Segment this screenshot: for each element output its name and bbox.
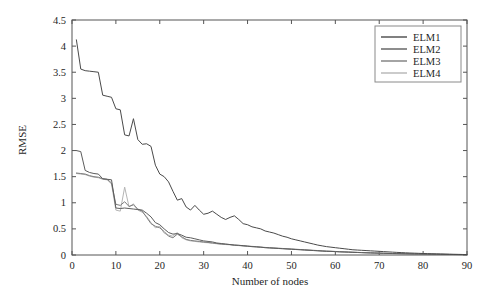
y-tick-label: 4.5 bbox=[53, 15, 66, 26]
x-tick-label: 40 bbox=[242, 260, 253, 271]
x-tick-label: 70 bbox=[374, 260, 385, 271]
y-tick-label: 3.5 bbox=[53, 67, 66, 78]
x-tick-label: 10 bbox=[111, 260, 122, 271]
legend-label-elm4[interactable]: ELM4 bbox=[413, 68, 441, 79]
x-tick-label: 0 bbox=[69, 260, 74, 271]
series-line-elm3 bbox=[76, 173, 467, 255]
y-tick-label: 1.5 bbox=[53, 171, 66, 182]
legend-label-elm1[interactable]: ELM1 bbox=[413, 32, 440, 43]
y-tick-label: 0.5 bbox=[53, 223, 66, 234]
y-tick-label: 1 bbox=[61, 197, 66, 208]
y-tick-label: 0 bbox=[61, 250, 66, 261]
y-tick-label: 4 bbox=[61, 41, 67, 52]
chart-canvas: 010203040506070809000.511.522.533.544.5 … bbox=[0, 0, 485, 294]
chart-legend[interactable]: ELM1ELM2ELM3ELM4 bbox=[375, 26, 461, 82]
y-tick-label: 2.5 bbox=[53, 119, 66, 130]
chart-figure: 010203040506070809000.511.522.533.544.5 … bbox=[0, 0, 485, 294]
x-tick-label: 50 bbox=[286, 260, 297, 271]
x-tick-label: 30 bbox=[198, 260, 209, 271]
series-line-elm4 bbox=[76, 174, 467, 255]
x-axis-title: Number of nodes bbox=[232, 275, 308, 287]
y-axis-title: RMSE bbox=[16, 125, 28, 155]
x-tick-label: 90 bbox=[462, 260, 473, 271]
legend-label-elm3[interactable]: ELM3 bbox=[413, 56, 440, 67]
series-line-elm2 bbox=[76, 151, 467, 255]
y-tick-label: 3 bbox=[61, 93, 66, 104]
x-tick-label: 60 bbox=[330, 260, 341, 271]
y-tick-label: 2 bbox=[61, 145, 66, 156]
x-tick-label: 20 bbox=[155, 260, 166, 271]
legend-label-elm2[interactable]: ELM2 bbox=[413, 44, 440, 55]
x-tick-label: 80 bbox=[418, 260, 429, 271]
